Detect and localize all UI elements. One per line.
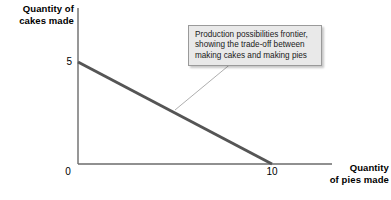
ppf-chart-figure: Quantity ofcakes made Quantityof pies ma… <box>0 0 391 200</box>
y-axis-title-line2: cakes made <box>19 15 74 26</box>
x-axis-title-line2: of pies made <box>330 174 389 185</box>
y-axis-title: Quantity ofcakes made <box>0 3 74 26</box>
annotation-leader-line <box>175 62 233 110</box>
x-axis-title-line1: Quantity <box>350 162 389 173</box>
x-axis-tick-label-0: 0 <box>58 166 78 177</box>
ppf-curve <box>78 62 272 164</box>
x-axis-tick-label-10: 10 <box>262 166 282 177</box>
y-axis-tick-label-5: 5 <box>52 56 72 67</box>
ppf-annotation-text: Production possibilities frontier, showi… <box>195 30 316 61</box>
y-axis-title-line1: Quantity of <box>23 3 74 14</box>
ppf-annotation-callout: Production possibilities frontier, showi… <box>188 25 322 66</box>
